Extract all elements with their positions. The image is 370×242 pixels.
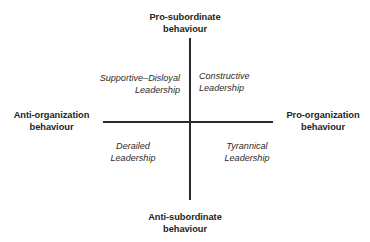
quadrant-bl-line2: Leadership	[86, 152, 180, 164]
axis-label-pro-subordinate-line2: behaviour	[0, 24, 370, 36]
axis-label-pro-organization-behaviour: Pro-organization behaviour	[276, 110, 370, 133]
quadrant-tr-line1: Constructive	[199, 71, 250, 81]
quadrant-tl-line2: Leadership	[60, 84, 180, 96]
quadrant-tl-line1: Supportive–Disloyal	[100, 73, 180, 83]
quadrant-bl-line1: Derailed	[116, 141, 150, 151]
axis-label-anti-organization-line2: behaviour	[2, 122, 101, 134]
axis-label-anti-subordinate-line2: behaviour	[0, 224, 370, 236]
quadrant-br-line1: Tyrannical	[226, 141, 267, 151]
axis-label-pro-organization-line1: Pro-organization	[286, 110, 359, 120]
quadrant-tr-line2: Leadership	[199, 82, 309, 94]
horizontal-axis-line	[103, 121, 273, 123]
quadrant-label-tyrannical-leadership: Tyrannical Leadership	[200, 140, 294, 165]
quadrant-label-derailed-leadership: Derailed Leadership	[86, 140, 180, 165]
quadrant-label-constructive-leadership: Constructive Leadership	[199, 70, 309, 95]
leadership-behaviour-quadrant-diagram: Pro-subordinate behaviour Anti-subordina…	[0, 0, 370, 242]
quadrant-label-supportive-disloyal-leadership: Supportive–Disloyal Leadership	[60, 72, 180, 97]
axis-label-anti-subordinate-behaviour: Anti-subordinate behaviour	[0, 212, 370, 235]
vertical-axis-line	[189, 38, 191, 200]
axis-label-anti-subordinate-line1: Anti-subordinate	[148, 212, 222, 222]
axis-label-pro-subordinate-behaviour: Pro-subordinate behaviour	[0, 12, 370, 35]
quadrant-br-line2: Leadership	[200, 152, 294, 164]
axis-label-pro-organization-line2: behaviour	[276, 122, 370, 134]
axis-label-anti-organization-behaviour: Anti-organization behaviour	[2, 110, 101, 133]
axis-label-anti-organization-line1: Anti-organization	[14, 110, 90, 120]
axis-label-pro-subordinate-line1: Pro-subordinate	[149, 12, 220, 22]
